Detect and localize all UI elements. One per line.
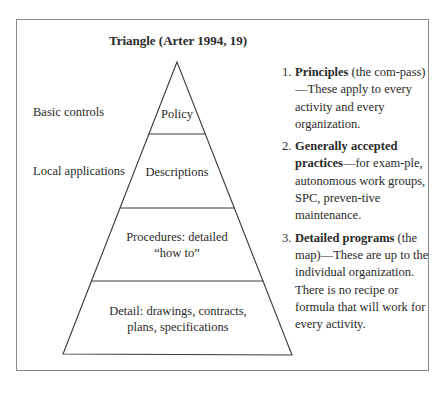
list-item-number: 1. (282, 64, 291, 81)
tier-descriptions-line1: Descriptions (127, 164, 227, 180)
list-item-number: 2. (282, 138, 291, 155)
tier-policy-line1: Policy (147, 106, 207, 122)
list-item: 2.Generally accepted practices—for exam-… (284, 138, 429, 224)
tier-policy: Policy (147, 106, 207, 122)
tier-procedures-line2: “how to” (107, 245, 247, 261)
tier-detail-line1: Detail: drawings, contracts, (90, 303, 266, 319)
list-item-number: 3. (282, 230, 291, 247)
list-item: 3.Detailed programs (the map)—These are … (284, 230, 429, 334)
list-item-heading: Principles (295, 65, 348, 79)
tier-descriptions: Policy Descriptions (127, 164, 227, 180)
tier-procedures-line1: Procedures: detailed (107, 229, 247, 245)
list-item: 1.Principles (the com-pass)—These apply … (284, 64, 429, 133)
tier-detail-line2: plans, specifications (90, 319, 266, 335)
principles-list: 1.Principles (the com-pass)—These apply … (284, 64, 429, 338)
tier-procedures: Procedures: detailed “how to” (107, 229, 247, 261)
list-item-heading: Detailed programs (295, 231, 394, 245)
tier-detail: Detail: drawings, contracts, plans, spec… (90, 303, 266, 335)
list-item-text: (the map)—These are up to the individual… (295, 231, 428, 331)
